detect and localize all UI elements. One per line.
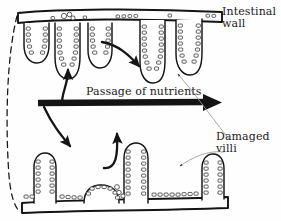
arrow-up-from-damaged-villi <box>104 134 117 168</box>
diagram-canvas: Intestinal wall Damaged villi Passage of… <box>0 0 281 221</box>
lumen-boundary-dashed <box>7 16 20 212</box>
damaged-villi-label: Damaged villi <box>216 131 270 155</box>
intestinal-wall-label: Intestinal wall <box>222 6 276 30</box>
healthy-villi-group <box>24 19 202 83</box>
intestinal-villi-figure <box>0 0 281 221</box>
passage-of-nutrients-label: Passage of nutrients <box>86 86 202 98</box>
arrow-down-into-damaged-villi <box>44 107 70 146</box>
